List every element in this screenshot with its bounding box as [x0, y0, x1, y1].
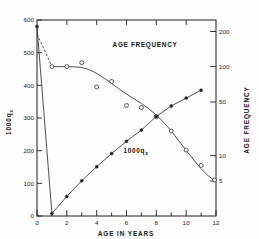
x-tick-label: 10 — [183, 219, 191, 226]
data-point-filled — [110, 152, 113, 155]
y-right-title-text: AGE FREQUENCY — [243, 86, 251, 153]
y-left-tick-label: 300 — [23, 114, 34, 121]
y-left-title-sub: x — [9, 109, 14, 112]
data-point-filled — [125, 140, 128, 143]
age-frequency-points — [50, 61, 217, 182]
plot-frame — [37, 20, 216, 216]
data-point-open — [80, 61, 84, 65]
y-axis-right-title: AGE FREQUENCY — [243, 86, 251, 153]
data-point-open — [50, 65, 54, 69]
y-right-tick-label: 200 — [219, 28, 230, 35]
x-axis-ticks — [37, 210, 216, 216]
data-point-open — [213, 178, 217, 182]
data-point-open — [110, 80, 114, 84]
y-axis-right-ticks — [210, 32, 216, 182]
annotation-age-frequency: AGE FREQUENCY — [113, 41, 178, 49]
x-axis-top-ticks — [67, 20, 186, 25]
x-tick-label: 12 — [212, 219, 220, 226]
svg-text:1000qx: 1000qx — [5, 109, 14, 135]
annotation-mortality-sub: x — [145, 151, 148, 156]
data-point-open — [169, 129, 173, 133]
y-left-tick-label: 500 — [23, 49, 34, 56]
mortality-lead-segment — [37, 27, 52, 214]
data-point-filled — [170, 104, 173, 107]
figure-container: 0 2 4 6 8 10 12 AGE IN YEARS 0 100 200 3… — [0, 0, 259, 239]
data-point-open — [65, 65, 69, 69]
data-point-filled — [80, 179, 83, 182]
data-point-open — [125, 104, 129, 108]
data-point-open — [184, 148, 188, 152]
y-left-tick-label: 0 — [30, 212, 34, 219]
data-point-open — [95, 85, 99, 89]
chart-canvas: 0 2 4 6 8 10 12 AGE IN YEARS 0 100 200 3… — [0, 0, 259, 239]
data-point-filled — [36, 25, 39, 28]
y-left-tick-label: 400 — [23, 82, 34, 89]
annotation-mortality: 1000qx — [124, 147, 149, 156]
x-tick-label: 0 — [35, 219, 39, 226]
age-frequency-curve — [52, 67, 216, 181]
annotation-mortality-text: 1000q — [124, 147, 146, 155]
x-tick-label: 8 — [155, 219, 159, 226]
y-axis-left-title: 1000qx — [5, 109, 14, 135]
y-left-tick-label: 100 — [23, 180, 34, 187]
data-point-filled — [65, 195, 68, 198]
y-axis-left-ticks — [37, 20, 42, 216]
data-point-filled — [140, 129, 143, 132]
y-right-tick-label: 100 — [219, 63, 230, 70]
x-tick-label: 2 — [65, 219, 69, 226]
data-point-filled — [155, 115, 158, 118]
y-right-tick-label: 10 — [219, 152, 227, 159]
y-left-tick-label: 200 — [23, 147, 34, 154]
data-point-filled — [95, 165, 98, 168]
x-tick-labels: 0 2 4 6 8 10 12 — [35, 219, 220, 226]
data-point-filled — [200, 89, 203, 92]
y-right-tick-label: 50 — [219, 98, 227, 105]
mortality-points — [36, 25, 203, 215]
y-right-tick-labels: 200 100 50 10 5 — [219, 28, 230, 185]
x-axis-title: AGE IN YEARS — [98, 230, 155, 237]
data-point-open — [199, 164, 203, 168]
y-left-tick-labels: 0 100 200 300 400 500 600 — [23, 16, 34, 219]
x-tick-label: 4 — [95, 219, 99, 226]
data-point-filled — [50, 212, 53, 215]
y-left-tick-label: 600 — [23, 16, 34, 23]
y-left-title-text: 1000q — [5, 112, 13, 135]
y-right-tick-label: 5 — [219, 177, 223, 184]
data-point-filled — [185, 97, 188, 100]
x-tick-label: 6 — [125, 219, 129, 226]
data-point-open — [139, 106, 143, 110]
